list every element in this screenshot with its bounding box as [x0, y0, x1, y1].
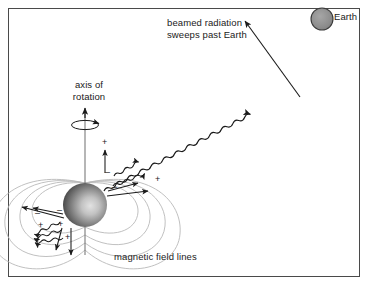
neutron-star: [63, 183, 107, 227]
label-axis-of-rotation: axis of rotation: [58, 79, 120, 102]
charge-plus: +: [155, 174, 160, 184]
pulsar-diagram: + + – – – – + + +: [0, 0, 369, 287]
axis-label-line-1: axis of: [58, 79, 120, 91]
charge-minus: –: [105, 167, 110, 177]
charge-minus: –: [57, 205, 62, 215]
label-earth: Earth: [334, 11, 357, 23]
diagram-page: + + – – – – + + + axis of rotation beame…: [0, 0, 369, 287]
emission-wave-icon: [112, 161, 140, 176]
earth-planet: [311, 8, 333, 30]
axis-label-line-2: rotation: [58, 91, 120, 103]
charge-plus: +: [38, 220, 43, 230]
charge-minus: –: [35, 208, 40, 218]
charge-plus: +: [58, 219, 63, 229]
sweep-direction-arrow-icon: [245, 21, 300, 97]
charge-plus: +: [65, 232, 70, 242]
beam-label-line-2: sweeps past Earth: [167, 29, 247, 41]
emission-wave-icon: [112, 174, 145, 186]
charge-minus: –: [112, 182, 117, 192]
charge-plus: +: [102, 137, 107, 147]
beam-label-line-1: beamed radiation: [167, 17, 247, 29]
label-magnetic-field-lines: magnetic field lines: [114, 251, 197, 263]
label-beamed-radiation: beamed radiation sweeps past Earth: [167, 17, 247, 40]
